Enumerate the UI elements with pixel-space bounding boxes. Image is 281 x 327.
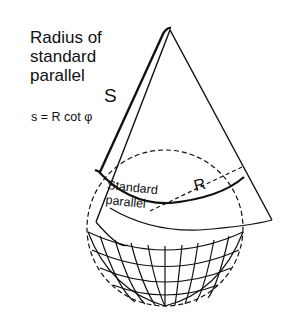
diagram-title: Radius of standard parallel — [30, 28, 102, 85]
slant-label: S — [104, 85, 117, 107]
formula-label: s = R cot φ — [31, 110, 92, 124]
standard-parallel-label: Standard parallel — [105, 178, 159, 213]
globe-grid — [88, 232, 243, 306]
conic-projection-diagram: Radius of standard parallel s = R cot φ … — [0, 0, 281, 327]
